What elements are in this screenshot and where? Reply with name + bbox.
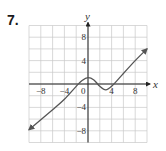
y-axis-label: y [84, 10, 90, 22]
x-axis-label: x [152, 78, 158, 90]
x-tick-label: 8 [133, 86, 138, 96]
y-tick-label: −8 [76, 126, 86, 136]
y-tick-label: −4 [76, 102, 86, 112]
y-tick-label: 4 [82, 56, 87, 66]
function-graph: xy−8−404884−4−8 [0, 0, 166, 151]
x-tick-label: −8 [36, 86, 46, 96]
x-tick-label: 0 [81, 86, 86, 96]
y-tick-label: 8 [82, 32, 87, 42]
